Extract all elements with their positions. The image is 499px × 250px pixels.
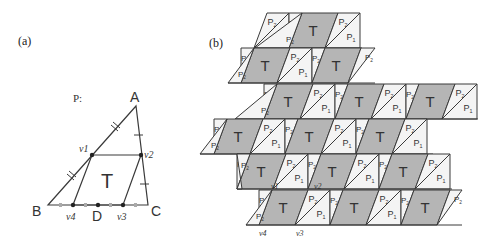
tile-t-label: T (308, 22, 317, 39)
tile-t-label: T (354, 93, 363, 110)
tile-t-label: T (260, 57, 269, 74)
tiling-v4-label: v4 (259, 229, 267, 238)
tile-p2-label: P2 (365, 53, 373, 63)
center-t-label: T (101, 170, 113, 192)
point-v4-label: v4 (66, 211, 75, 222)
tile-t-label: T (304, 128, 313, 145)
tile-p2-label: P2 (454, 195, 462, 205)
point-v3-label: v3 (117, 211, 126, 222)
tile-t-label: T (331, 57, 340, 74)
vertex-d-label: D (92, 208, 102, 224)
vertex-b-label: B (32, 203, 41, 219)
tile-t-label: T (375, 128, 384, 145)
tile-t-label: T (425, 93, 434, 110)
panel-b-tiling: P2P1P2TP2P1P2P2TP2P1P2TP2P2P2TP2P1P2TP2P… (200, 13, 478, 225)
figure-canvas: P: A B C D T v1 v2 v4 v3 P2P1P2TP2P1P2P2… (0, 0, 499, 250)
vertex-c-label: C (151, 203, 161, 219)
tile-t-label: T (256, 163, 265, 180)
tile-t-label: T (420, 199, 429, 216)
tiling-v2-label: v2 (314, 182, 322, 191)
tile-t-label: T (278, 199, 287, 216)
tile-t-label: T (283, 93, 292, 110)
tile-t-label: T (233, 128, 242, 145)
panel-a-triangle-diagram: P: A B C D T v1 v2 v4 v3 (32, 89, 161, 224)
title-p: P: (73, 92, 82, 104)
tile-t-label: T (398, 163, 407, 180)
tiling-v3-label: v3 (296, 229, 304, 238)
point-v1-label: v1 (79, 143, 88, 154)
vertex-a-label: A (130, 89, 140, 105)
tile-t-label: T (327, 163, 336, 180)
tile-t-label: T (349, 199, 358, 216)
point-v2-label: v2 (144, 149, 153, 160)
tiling-v1-label: v1 (271, 182, 279, 191)
